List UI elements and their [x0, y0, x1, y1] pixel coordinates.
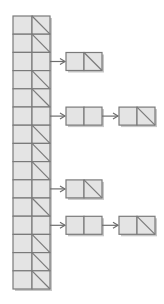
bucket-key-cell — [13, 180, 32, 198]
bucket-array — [13, 16, 52, 291]
linked-list-chains — [50, 53, 157, 237]
bucket-row — [13, 34, 50, 52]
bucket-row — [13, 180, 50, 198]
bucket-row — [13, 16, 50, 34]
bucket-key-cell — [13, 253, 32, 271]
bucket-row — [13, 71, 50, 89]
list-node — [66, 107, 104, 127]
bucket-pointer-cell — [32, 216, 50, 234]
node-data-cell — [119, 216, 137, 234]
bucket-row — [13, 107, 50, 125]
hash-table-diagram — [0, 0, 164, 304]
list-node — [66, 216, 104, 236]
bucket-row — [13, 271, 50, 289]
node-data-cell — [66, 216, 84, 234]
list-node — [66, 180, 104, 200]
hash-table-chaining-svg — [0, 0, 164, 304]
list-node — [119, 216, 157, 236]
bucket-key-cell — [13, 143, 32, 161]
bucket-key-cell — [13, 234, 32, 252]
list-node — [119, 107, 157, 127]
list-node — [66, 53, 104, 73]
node-next-cell — [84, 107, 102, 125]
node-data-cell — [119, 107, 137, 125]
node-data-cell — [66, 53, 84, 71]
bucket-key-cell — [13, 162, 32, 180]
bucket-key-cell — [13, 89, 32, 107]
node-data-cell — [66, 107, 84, 125]
node-data-cell — [66, 180, 84, 198]
bucket-row — [13, 143, 50, 161]
bucket-row — [13, 216, 50, 234]
bucket-key-cell — [13, 107, 32, 125]
bucket-row — [13, 125, 50, 143]
bucket-row — [13, 234, 50, 252]
bucket-key-cell — [13, 34, 32, 52]
bucket-key-cell — [13, 271, 32, 289]
bucket-row — [13, 162, 50, 180]
bucket-key-cell — [13, 125, 32, 143]
bucket-key-cell — [13, 216, 32, 234]
bucket-row — [13, 253, 50, 271]
bucket-pointer-cell — [32, 180, 50, 198]
bucket-row — [13, 52, 50, 70]
bucket-pointer-cell — [32, 52, 50, 70]
bucket-row — [13, 198, 50, 216]
bucket-key-cell — [13, 52, 32, 70]
bucket-key-cell — [13, 71, 32, 89]
bucket-key-cell — [13, 198, 32, 216]
node-next-cell — [84, 216, 102, 234]
bucket-key-cell — [13, 16, 32, 34]
bucket-row — [13, 89, 50, 107]
bucket-pointer-cell — [32, 107, 50, 125]
